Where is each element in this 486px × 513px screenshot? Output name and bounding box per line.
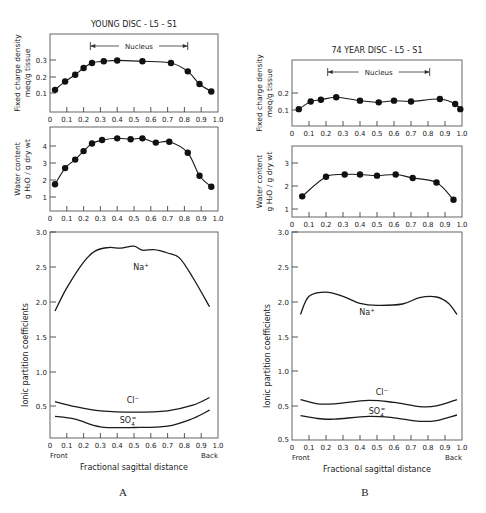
subplot-A-fixed_charge_density: 00.10.20.30.40.50.60.70.80.91.00.10.20.3… [13, 20, 224, 124]
x-tick-label: 1.0 [212, 442, 223, 450]
data-point [89, 140, 95, 146]
x-tick-label: 0.1 [61, 215, 72, 223]
y-tick-label: 4 [43, 143, 48, 151]
data-point [185, 150, 191, 156]
superscript: − [384, 387, 389, 393]
data-point [408, 98, 414, 104]
data-point [52, 181, 58, 187]
data-point [208, 184, 214, 190]
subplot-A-water_content: 00.10.20.30.40.50.60.70.80.91.01234Water… [13, 127, 224, 223]
y-tick-label: 2 [43, 177, 47, 185]
x-tick-label: 0.4 [112, 442, 124, 450]
x-tick-label: 0.2 [78, 215, 89, 223]
y-axis-label: Ionic partition coefficients [263, 304, 272, 408]
x-tick-label: 0.9 [439, 130, 450, 138]
y-tick-label: 0.2 [36, 74, 47, 82]
data-point [357, 171, 363, 177]
x-tick-label: 0.2 [320, 444, 331, 452]
superscript: − [135, 395, 140, 401]
y-axis-label: Water content [255, 155, 264, 208]
y-tick-label: 3 [285, 160, 289, 168]
data-point [376, 99, 382, 105]
y-tick-label: 0.3 [36, 57, 47, 65]
panel-label-a: A [119, 486, 127, 498]
data-point [323, 174, 329, 180]
x-tick-label: 0.3 [95, 442, 106, 450]
arrow-right-icon [425, 70, 430, 74]
y-axis-label-units: meq/g tissue [23, 48, 32, 97]
series-line-Na+ [55, 246, 210, 311]
data-point [208, 88, 214, 94]
subplot-B-water_content: 00.10.20.30.40.50.60.70.80.91.0123Water … [255, 146, 468, 229]
data-point [357, 97, 363, 103]
x-tick-label: 0.7 [405, 221, 416, 229]
y-axis-label-units: meq/g tissue [265, 68, 274, 117]
data-point [299, 193, 305, 199]
x-axis-label: Fractional sagittal distance [323, 465, 431, 474]
data-point [62, 165, 68, 171]
data-point [437, 96, 443, 102]
data-point [374, 172, 380, 178]
x-tick-label: 0.4 [112, 116, 124, 124]
x-tick-label: 0.7 [162, 442, 173, 450]
data-point [139, 58, 145, 64]
data-point [153, 139, 159, 145]
y-tick-label: 0.5 [278, 436, 289, 444]
y-tick-label: 1.5 [36, 334, 47, 342]
x-tick-label: 1.0 [456, 221, 467, 229]
data-point [80, 65, 86, 71]
data-point [393, 171, 399, 177]
data-line [55, 138, 211, 187]
data-point [114, 57, 120, 63]
x-tick-label: 0.6 [388, 444, 400, 452]
plot-frame [50, 127, 218, 211]
arrow-left-icon [328, 70, 333, 74]
series-label: Cl− [127, 395, 140, 405]
data-point [72, 156, 78, 162]
x-tick-label: 0 [290, 221, 294, 229]
x-tick-label: 0.5 [128, 215, 139, 223]
data-point [452, 101, 458, 107]
series-line-Cl- [301, 400, 457, 407]
data-point [410, 175, 416, 181]
chart-title: 74 YEAR DISC - L5 - S1 [331, 46, 422, 55]
x-tick-label: 0.1 [61, 442, 72, 450]
superscript: = [381, 406, 386, 412]
y-tick-label: 1.0 [36, 369, 47, 377]
superscript: = [132, 415, 137, 421]
y-tick-label: 3 [43, 160, 47, 168]
y-axis-label-units: g H₂O / g dry wt [23, 139, 32, 199]
series-label: Na+ [359, 307, 375, 317]
x-tick-label: 0 [290, 444, 294, 452]
arrow-right-icon [183, 44, 188, 48]
x-tick-label: 0.5 [128, 442, 139, 450]
data-line [55, 60, 211, 91]
y-tick-label: 2.0 [36, 299, 47, 307]
data-point [196, 81, 202, 87]
x-tick-label: 0.7 [162, 116, 173, 124]
subplot-B-ionic_partition_coefficients: 00.10.20.30.40.50.60.70.80.91.00.51.01.5… [263, 229, 468, 475]
x-tick-label: 0 [48, 442, 52, 450]
x-tick-label: 0.6 [145, 215, 157, 223]
data-point [450, 197, 456, 203]
y-tick-label: 3.0 [36, 229, 47, 237]
data-point [99, 137, 105, 143]
y-tick-label: 2.5 [278, 264, 289, 272]
x-tick-label: 0.3 [337, 130, 348, 138]
x-tick-label: 0.4 [112, 215, 124, 223]
x-tick-label: 0.8 [422, 221, 433, 229]
x-axis-label: Fractional sagittal distance [80, 463, 188, 472]
x-tick-label: 0.9 [196, 215, 207, 223]
y-tick-label: 1 [285, 206, 289, 214]
data-point [101, 58, 107, 64]
x-tick-label: 0 [48, 116, 52, 124]
x-tick-label: 0.2 [78, 116, 89, 124]
x-tick-label: 0.2 [320, 130, 331, 138]
x-tick-label: 0.4 [354, 130, 366, 138]
x-tick-label: 0.8 [179, 116, 190, 124]
y-axis-label-units: g H₂O / g dry wt [265, 152, 274, 212]
data-point [433, 179, 439, 185]
subscript: 4 [380, 412, 384, 418]
x-tick-label: 0.8 [422, 444, 433, 452]
x-tick-label: 1.0 [212, 215, 223, 223]
